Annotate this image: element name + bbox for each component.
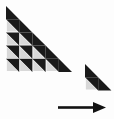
figure-layer [0, 0, 114, 119]
figure-svg [0, 0, 114, 119]
diagram-canvas [0, 0, 114, 119]
arrow-shaft [58, 106, 96, 109]
